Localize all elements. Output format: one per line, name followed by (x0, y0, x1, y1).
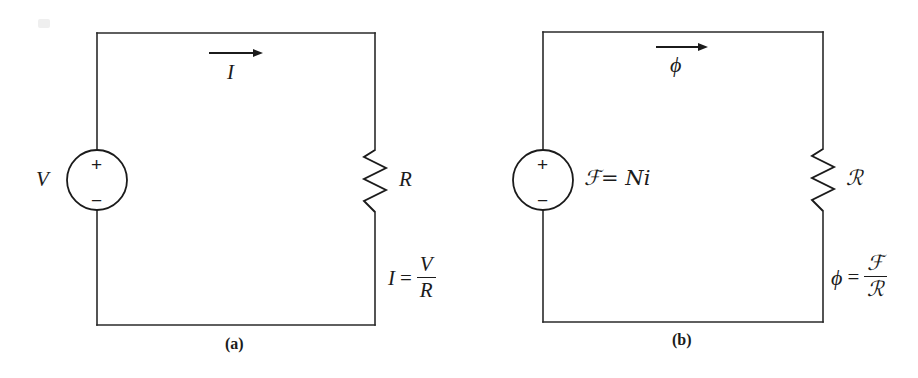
equation-a-numerator: V (417, 254, 436, 276)
equation-b-numerator: ℱ (864, 253, 887, 275)
resistor-label-a: R (399, 169, 412, 190)
circuit-drawing-canvas (0, 0, 918, 378)
current-flow-label-a: I (227, 62, 234, 83)
source-polarity-plus-b: + (537, 155, 548, 174)
resistor-symbol-a (364, 150, 386, 212)
reluctance-symbol-b (812, 149, 834, 211)
mmf-source-label: ℱ= Ni (584, 168, 650, 189)
equation-a-fraction: V R (417, 254, 436, 301)
source-polarity-plus-a: + (91, 155, 102, 174)
reluctance-label-b: ℛ (846, 168, 863, 189)
equation-a-operator: = (400, 268, 412, 289)
equation-a-lhs: I (388, 268, 395, 289)
equation-a-denominator: R (417, 279, 436, 301)
voltage-source-label: V (36, 169, 49, 190)
source-polarity-minus-a: − (91, 191, 102, 210)
figure-root: V + − I R I = V R (a) ℱ= Ni + − ϕ ℛ ϕ = … (0, 0, 918, 378)
equation-b-denominator: ℛ (864, 278, 887, 300)
panel-a-wire-loop (97, 33, 375, 325)
ohms-law-equation-a: I = V R (388, 255, 436, 302)
equation-b-lhs: ϕ (831, 267, 842, 289)
magnetic-ohms-law-equation-b: ϕ = ℱ ℛ (831, 254, 887, 301)
flux-flow-label-b: ϕ (670, 54, 681, 76)
panel-caption-b: (b) (672, 332, 692, 348)
current-arrow-a (209, 49, 263, 57)
flux-arrow-b (656, 43, 708, 51)
panel-caption-a: (a) (225, 336, 244, 352)
equation-b-operator: = (847, 267, 859, 288)
source-polarity-minus-b: − (537, 191, 548, 210)
equation-b-fraction: ℱ ℛ (864, 253, 887, 300)
